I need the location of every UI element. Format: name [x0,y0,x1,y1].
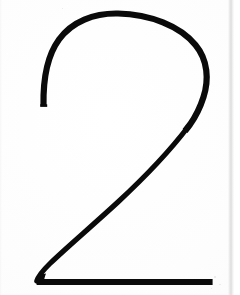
paper-speck [214,276,216,278]
scanned-numeral-image [0,0,240,295]
glyph-strokes [37,13,213,282]
paper-speck [211,288,212,289]
paper-speck [62,8,63,9]
numeral-two-glyph [0,0,240,295]
paper-speck [219,284,221,285]
diagonal-stroke [37,127,188,281]
bowl-stroke [43,13,206,131]
right-margin-area [234,0,240,295]
numeral-two-vector [0,0,240,295]
